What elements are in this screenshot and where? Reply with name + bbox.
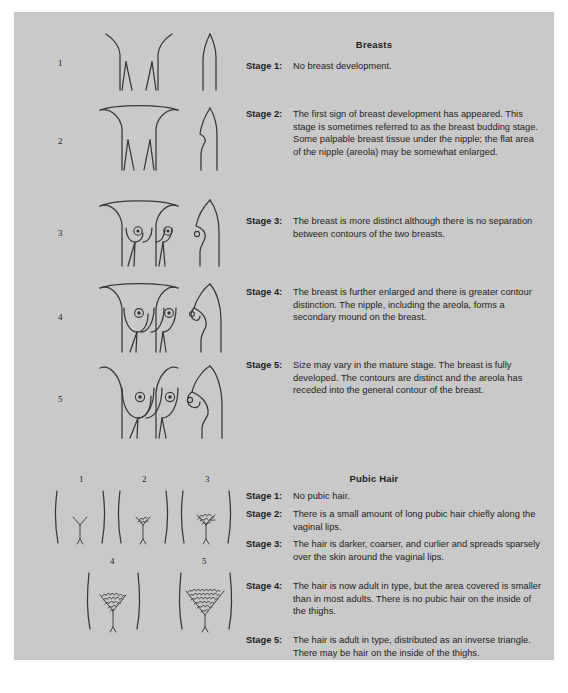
breast-figure-number-5: 5 xyxy=(58,394,63,404)
pubic-hair-figure-number-2: 2 xyxy=(142,474,147,484)
pubic-hair-stage-1-text: Stage 1: No pubic hair. xyxy=(246,490,544,503)
pubic-hair-stage-5-label: Stage 5: xyxy=(246,634,293,647)
breast-stage-5-label: Stage 5: xyxy=(246,359,293,372)
pubic-hair-stage-1-label: Stage 1: xyxy=(246,490,293,503)
diagram-page: Breasts 1 xyxy=(14,12,554,660)
pubic-hair-stage-1-description: No pubic hair. xyxy=(293,490,544,503)
breast-figure-number-3: 3 xyxy=(58,228,63,238)
pubic-hair-stage-3-description: The hair is darker, coarser, and curlier… xyxy=(293,538,544,563)
pubic-hair-stage-3-label: Stage 3: xyxy=(246,538,293,551)
breast-stage-1-description: No breast development. xyxy=(293,60,544,73)
pubic-hair-figure-number-1: 1 xyxy=(79,474,84,484)
pubic-hair-figure-number-4: 4 xyxy=(110,556,115,566)
breast-stage-4-illustration xyxy=(64,282,244,358)
pubic-hair-stage-2-label: Stage 2: xyxy=(246,508,293,521)
breast-stage-5-illustration xyxy=(64,364,244,444)
pubic-hair-stage-5-description: The hair is adult in type, distributed a… xyxy=(293,634,544,659)
breast-figure-number-2: 2 xyxy=(58,136,63,146)
pubic-hair-figure-number-5: 5 xyxy=(202,556,207,566)
pubic-hair-stage-3-illustration xyxy=(177,487,235,547)
pubic-hair-stage-2-text: Stage 2: There is a small amount of long… xyxy=(246,508,544,533)
breast-stage-2-label: Stage 2: xyxy=(246,108,293,121)
breast-stage-3-text: Stage 3: The breast is more distinct alt… xyxy=(246,215,544,240)
pubic-hair-stage-4-illustration xyxy=(82,569,144,633)
breast-stage-1-label: Stage 1: xyxy=(246,60,293,73)
pubic-hair-stage-4-description: The hair is now adult in type, but the a… xyxy=(293,580,544,618)
breast-stage-3-description: The breast is more distinct although the… xyxy=(293,215,544,240)
pubic-hair-section: Pubic Hair 1 2 3 xyxy=(14,452,554,660)
pubic-hair-heading: Pubic Hair xyxy=(314,473,434,484)
breast-stage-4-label: Stage 4: xyxy=(246,286,293,299)
pubic-hair-stage-4-label: Stage 4: xyxy=(246,580,293,593)
breast-stage-3-label: Stage 3: xyxy=(246,215,293,228)
breasts-section: Breasts 1 xyxy=(14,12,554,452)
breast-stage-5-text: Stage 5: Size may vary in the mature sta… xyxy=(246,359,544,397)
breast-stage-2-description: The first sign of breast development has… xyxy=(293,108,544,158)
breast-stage-2-text: Stage 2: The first sign of breast develo… xyxy=(246,108,544,158)
breast-stage-5-description: Size may vary in the mature stage. The b… xyxy=(293,359,544,397)
pubic-hair-stage-5-text: Stage 5: The hair is adult in type, dist… xyxy=(246,634,544,659)
breast-stage-4-text: Stage 4: The breast is further enlarged … xyxy=(246,286,544,324)
breast-stage-3-illustration xyxy=(64,198,244,272)
pubic-hair-figure-number-3: 3 xyxy=(205,474,210,484)
pubic-hair-stage-4-text: Stage 4: The hair is now adult in type, … xyxy=(246,580,544,618)
breast-stage-2-illustration xyxy=(64,104,244,176)
pubic-hair-stage-2-illustration xyxy=(114,487,172,547)
pubic-hair-stage-5-illustration xyxy=(174,569,236,633)
pubic-hair-stage-2-description: There is a small amount of long pubic ha… xyxy=(293,508,544,533)
breast-figure-number-1: 1 xyxy=(58,58,63,68)
pubic-hair-stage-1-illustration xyxy=(51,487,109,547)
breast-stage-1-text: Stage 1: No breast development. xyxy=(246,60,544,73)
pubic-hair-stage-3-text: Stage 3: The hair is darker, coarser, an… xyxy=(246,538,544,563)
breast-stage-4-description: The breast is further enlarged and there… xyxy=(293,286,544,324)
breast-stage-1-illustration xyxy=(64,32,244,94)
breasts-heading: Breasts xyxy=(314,39,434,50)
breast-figure-number-4: 4 xyxy=(58,312,63,322)
